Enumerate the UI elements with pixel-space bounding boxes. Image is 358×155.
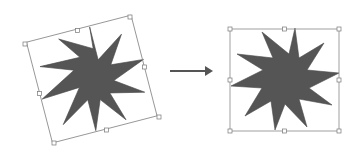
- handle-bm[interactable]: [105, 128, 109, 132]
- handle-tl[interactable]: [228, 27, 232, 31]
- handle-tl[interactable]: [23, 42, 27, 46]
- handle-ml[interactable]: [228, 78, 232, 82]
- handle-tr[interactable]: [337, 27, 341, 31]
- left-rotated-group: [26, 15, 158, 143]
- star-shape-upright[interactable]: [231, 28, 339, 130]
- handle-br[interactable]: [337, 129, 341, 133]
- handle-bl[interactable]: [52, 141, 56, 145]
- handle-br[interactable]: [157, 115, 161, 119]
- handle-tm[interactable]: [76, 29, 80, 33]
- handle-mr[interactable]: [337, 78, 341, 82]
- transform-diagram: [0, 0, 358, 155]
- handle-bm[interactable]: [283, 129, 287, 133]
- handle-mr[interactable]: [143, 65, 147, 69]
- arrow-right-icon: [170, 66, 213, 76]
- handle-ml[interactable]: [38, 92, 42, 96]
- handle-tr[interactable]: [128, 15, 132, 19]
- handle-tm[interactable]: [283, 27, 287, 31]
- handle-bl[interactable]: [228, 129, 232, 133]
